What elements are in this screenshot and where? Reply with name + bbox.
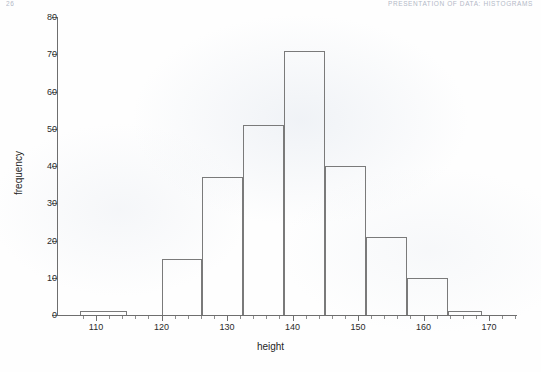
x-tick-minor — [332, 316, 333, 319]
x-tick-label: 130 — [209, 322, 245, 332]
x-tick-minor — [319, 316, 320, 319]
x-tick-minor — [397, 316, 398, 319]
x-tick-minor — [279, 316, 280, 319]
x-tick-major — [162, 316, 163, 321]
histogram-bar — [243, 125, 284, 315]
x-tick-minor — [122, 316, 123, 319]
x-tick-major — [227, 316, 228, 321]
x-tick-minor — [450, 316, 451, 319]
histogram-chart: 01020304050607080 110120130140150160170 … — [0, 0, 541, 372]
y-tick-label: 40 — [29, 161, 57, 171]
x-tick-label: 140 — [275, 322, 311, 332]
y-tick-label: 60 — [29, 87, 57, 97]
x-tick-major — [358, 316, 359, 321]
x-tick-minor — [476, 316, 477, 319]
y-tick-label: 80 — [29, 12, 57, 22]
x-tick-minor — [135, 316, 136, 319]
x-tick-major — [293, 316, 294, 321]
y-tick-label: 70 — [29, 49, 57, 59]
x-tick-major — [489, 316, 490, 321]
x-tick-minor — [306, 316, 307, 319]
x-tick-label: 110 — [78, 322, 114, 332]
x-tick-major — [96, 316, 97, 321]
x-tick-minor — [502, 316, 503, 319]
x-tick-minor — [515, 316, 516, 319]
x-tick-minor — [371, 316, 372, 319]
x-tick-minor — [437, 316, 438, 319]
histogram-bar — [202, 177, 243, 315]
histogram-bar — [407, 278, 448, 315]
x-tick-minor — [201, 316, 202, 319]
x-tick-label: 170 — [471, 322, 507, 332]
x-tick-minor — [83, 316, 84, 319]
x-tick-label: 160 — [406, 322, 442, 332]
y-tick-label: 50 — [29, 124, 57, 134]
x-tick-minor — [266, 316, 267, 319]
histogram-bar — [366, 237, 407, 315]
x-tick-minor — [148, 316, 149, 319]
histogram-bar — [448, 311, 482, 315]
x-tick-minor — [188, 316, 189, 319]
y-axis-title: frequency — [13, 151, 24, 195]
x-tick-minor — [384, 316, 385, 319]
y-tick-label: 30 — [29, 198, 57, 208]
histogram-bar — [80, 311, 127, 315]
x-axis-title: height — [0, 341, 541, 352]
y-tick-label: 20 — [29, 236, 57, 246]
y-axis-line — [57, 17, 58, 316]
y-tick-label: 0 — [29, 310, 57, 320]
x-tick-label: 150 — [340, 322, 376, 332]
x-tick-minor — [109, 316, 110, 319]
x-tick-minor — [175, 316, 176, 319]
x-tick-minor — [410, 316, 411, 319]
x-tick-minor — [463, 316, 464, 319]
x-tick-major — [424, 316, 425, 321]
histogram-bar — [325, 166, 366, 315]
x-tick-minor — [345, 316, 346, 319]
y-tick-label: 10 — [29, 273, 57, 283]
histogram-bar — [162, 259, 203, 315]
x-tick-label: 120 — [144, 322, 180, 332]
histogram-bar — [284, 51, 325, 315]
x-tick-minor — [240, 316, 241, 319]
x-tick-minor — [214, 316, 215, 319]
x-tick-minor — [253, 316, 254, 319]
x-axis-line — [57, 315, 517, 316]
